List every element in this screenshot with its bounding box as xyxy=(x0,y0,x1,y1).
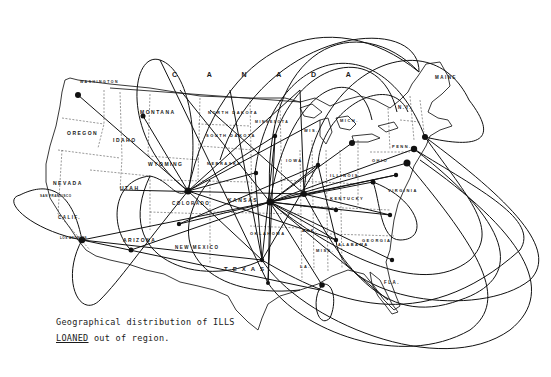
label-arkansas: ARK. xyxy=(302,228,318,233)
label-washington: WASHINGTON xyxy=(80,80,119,84)
label-michigan: MICH. xyxy=(340,118,359,123)
label-los-angeles: LOS ANGELES xyxy=(60,236,87,240)
label-oregon: OREGON xyxy=(67,130,98,136)
label-ny: N.Y. xyxy=(398,105,412,110)
label-wisconsin: WIS. xyxy=(304,128,319,133)
label-florida: FLA. xyxy=(384,280,400,285)
canada-border xyxy=(110,88,300,102)
state-borders xyxy=(58,90,424,280)
label-nebraska: NEBRASKA xyxy=(207,161,242,166)
label-san-francisco: SAN FRANCISCO xyxy=(40,194,72,198)
label-montana: MONTANA xyxy=(140,109,176,115)
canada-label: C A N A D A xyxy=(172,71,365,78)
label-wyoming: WYOMING xyxy=(148,161,184,167)
us-outline xyxy=(46,62,452,330)
label-nevada: NEVADA xyxy=(53,180,83,186)
label-arizona: ARIZONA xyxy=(123,237,156,243)
label-miss: MISS. xyxy=(316,248,334,253)
label-minnesota: MINNESOTA xyxy=(255,120,289,124)
label-virginia: VIRGINIA xyxy=(388,188,418,193)
figure-caption-line2: LOANED out of region. xyxy=(56,333,170,343)
figure-caption-line1: Geographical distribution of ILLS xyxy=(56,317,235,327)
label-new-mexico: NEW MEXICO xyxy=(175,245,220,250)
caption-loaned-underlined: LOANED xyxy=(56,333,89,343)
label-penn: PENN. xyxy=(392,144,412,149)
label-kansas: KANSAS xyxy=(228,197,258,203)
label-utah: UTAH xyxy=(120,185,140,191)
label-georgia: GEORGIA xyxy=(362,238,391,243)
label-la: LA. xyxy=(300,264,311,269)
label-kentucky: KENTUCKY xyxy=(330,196,364,201)
label-oklahoma: OKLAHOMA xyxy=(250,231,286,236)
label-illinois: ILLINOIS xyxy=(330,173,359,178)
label-texas: TEXAS xyxy=(224,266,269,272)
label-idaho: IDAHO xyxy=(113,137,137,143)
label-north-dakota: NORTH DAKOTA xyxy=(208,110,258,115)
label-maine: MAINE xyxy=(435,75,457,80)
label-colorado: COLORADO xyxy=(172,201,210,206)
label-california: CALIF. xyxy=(58,215,81,220)
caption-rest: out of region. xyxy=(89,333,170,343)
label-ohio: OHIO xyxy=(372,158,388,163)
label-south-dakota: SOUTH DAKOTA xyxy=(206,133,256,138)
label-iowa: IOWA xyxy=(286,158,303,163)
